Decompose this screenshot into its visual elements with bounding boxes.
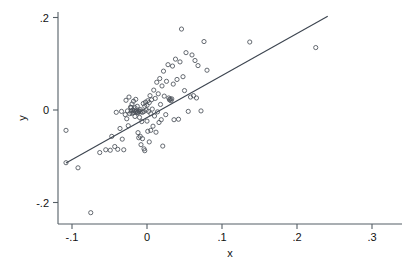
data-point (120, 137, 124, 141)
data-point (148, 94, 152, 98)
data-point (154, 130, 158, 134)
scatter-plot-figure: .20-.2-.10.1.2.3 xy (0, 0, 408, 259)
data-point (190, 53, 194, 57)
axes-group: .20-.2-.10.1.2.3 (36, 12, 402, 244)
data-point (173, 57, 177, 61)
x-axis-title: x (227, 247, 233, 259)
y-tick-label: 0 (43, 104, 49, 116)
data-point (152, 88, 156, 92)
plot-canvas: .20-.2-.10.1.2.3 xy (0, 0, 408, 259)
data-point (157, 120, 161, 124)
data-point (196, 64, 200, 68)
data-point (119, 109, 123, 113)
data-point (145, 119, 149, 123)
data-point (156, 92, 160, 96)
data-point (125, 117, 129, 121)
data-point (162, 94, 166, 98)
data-point (158, 76, 162, 80)
data-point (171, 82, 175, 86)
data-point (108, 148, 112, 152)
data-point (114, 110, 118, 114)
data-point (153, 96, 157, 100)
x-tick-label: .1 (217, 231, 226, 243)
data-point (199, 109, 203, 113)
data-point (147, 140, 151, 144)
data-point (205, 68, 209, 72)
data-point (89, 211, 93, 215)
y-tick-label: -.2 (36, 197, 49, 209)
data-point (150, 107, 154, 111)
data-point (202, 39, 206, 43)
data-point (151, 124, 155, 128)
data-point (137, 115, 141, 119)
data-point (194, 96, 198, 100)
data-point (161, 69, 165, 73)
data-point (158, 102, 162, 106)
data-point (126, 124, 130, 128)
data-point (186, 109, 190, 113)
data-point (104, 148, 108, 152)
data-point (76, 166, 80, 170)
axis-labels-group: xy (16, 115, 233, 259)
data-point (161, 144, 165, 148)
data-point (164, 113, 168, 117)
x-tick-label: .2 (292, 231, 301, 243)
data-point (160, 84, 164, 88)
data-point (127, 95, 131, 99)
data-point (181, 75, 185, 79)
data-point (184, 51, 188, 55)
data-point (164, 79, 168, 83)
data-point (176, 117, 180, 121)
data-point (133, 114, 137, 118)
data-point (118, 126, 122, 130)
x-tick-label: .3 (367, 231, 376, 243)
x-tick-label: 0 (144, 231, 150, 243)
data-point (122, 148, 126, 152)
data-point (159, 118, 163, 122)
data-point (175, 77, 179, 81)
regression-fit-line (66, 16, 328, 163)
data-point (314, 45, 318, 49)
y-axis-title: y (16, 115, 28, 121)
data-point (179, 27, 183, 31)
data-point (178, 60, 182, 64)
data-point (155, 80, 159, 84)
data-points-group (64, 27, 318, 215)
x-tick-label: -.1 (66, 231, 79, 243)
data-point (64, 128, 68, 132)
data-point (152, 114, 156, 118)
fit-line-group (66, 16, 328, 163)
data-point (172, 118, 176, 122)
data-point (139, 143, 143, 147)
data-point (170, 64, 174, 68)
data-point (98, 150, 102, 154)
data-point (193, 58, 197, 62)
data-point (166, 63, 170, 67)
data-point (116, 147, 120, 151)
data-point (248, 40, 252, 44)
data-point (182, 88, 186, 92)
y-tick-label: .2 (40, 12, 49, 24)
